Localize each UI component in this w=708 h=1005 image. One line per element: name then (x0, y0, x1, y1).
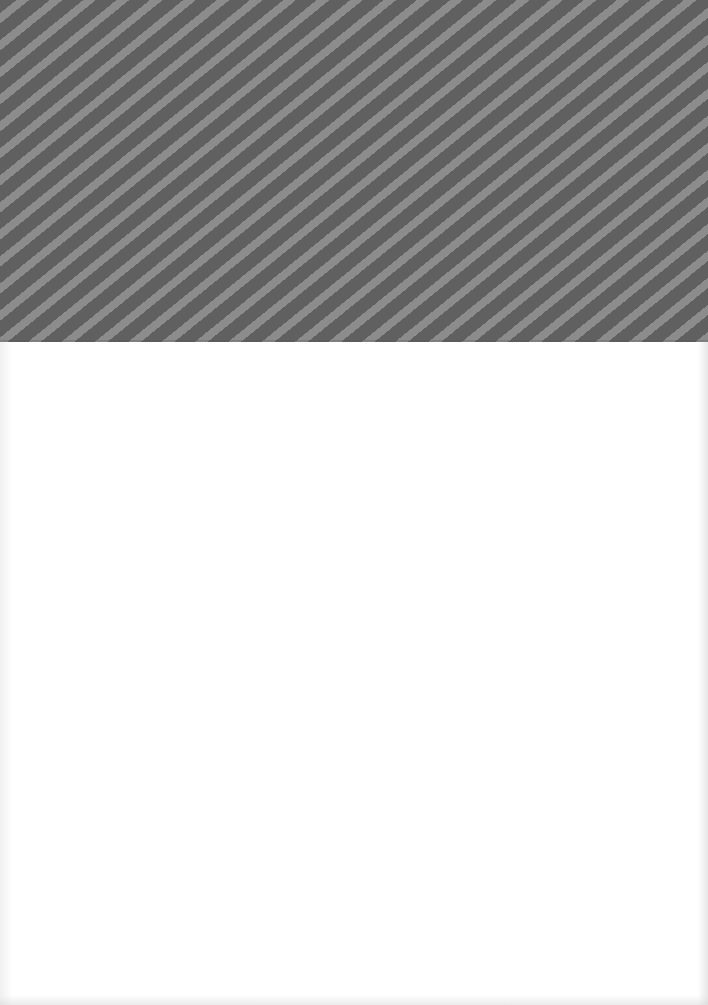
blank-page-body (0, 342, 708, 1005)
right-edge-shadow (698, 342, 708, 1005)
striped-header-band (0, 0, 708, 342)
left-edge-shadow (0, 342, 12, 1005)
document-page (0, 0, 708, 1005)
bottom-edge-shadow (0, 995, 708, 1005)
